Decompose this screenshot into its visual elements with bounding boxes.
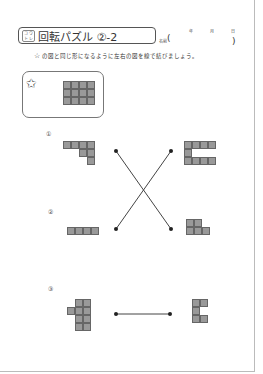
left-dot-1[interactable] <box>114 149 118 153</box>
right-dot-2[interactable] <box>169 227 173 231</box>
worksheet-page: コ ウ ト レ 回転パズル ②-2 年 月 日 名前 ( ) ☆の図と同じ形にな… <box>0 0 255 372</box>
connecting-lines <box>0 0 263 374</box>
right-dot-1[interactable] <box>169 149 173 153</box>
left-dot-2[interactable] <box>114 227 118 231</box>
right-dot-3[interactable] <box>168 312 172 316</box>
left-dot-3[interactable] <box>114 312 118 316</box>
